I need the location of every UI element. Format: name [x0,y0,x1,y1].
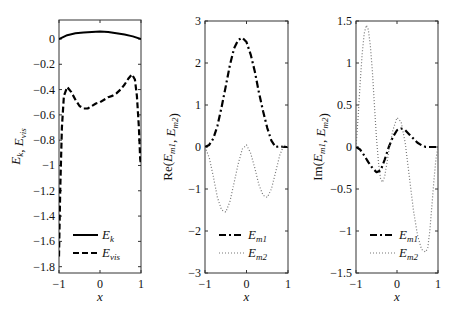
x-axis-label: x [243,289,250,304]
chart-panel-left: 0−0.2−0.4−0.6−0.8−1−1.2−1.4−1.6−1.8−101x… [8,20,144,304]
y-tick-label: −0.8 [33,133,55,147]
y-tick-label: 1 [346,56,352,70]
y-tick-label: 0 [195,140,201,154]
legend-label: Em2 [398,245,418,262]
legend: Em1Em2 [219,227,267,262]
x-tick-label: 1 [285,277,291,291]
y-tick-label: −0.6 [33,108,55,122]
y-tick-label: −1.4 [33,209,55,223]
y-tick-label: 2 [195,56,201,70]
chart-panel-middle: 3210−1−2−3−101xRe(Em1, Em2)Em1Em2 [160,14,291,304]
x-tick-label: −1 [53,277,66,291]
y-axis-label: Im(Em1, Em2) [310,113,331,181]
x-tick-label: −1 [350,277,363,291]
y-tick-label: −0.4 [33,83,55,97]
series-line-em2 [205,145,288,212]
y-tick-label: −1 [339,224,352,238]
y-tick-label: −2 [188,224,201,238]
legend: EkEvis [73,227,120,262]
plot-frame [205,21,288,273]
y-tick-label: −0.2 [33,57,55,71]
x-axis-label: x [96,289,103,304]
series-line-em2 [356,25,438,252]
y-tick-label: −1.6 [33,234,55,248]
legend-label: Em1 [398,227,418,244]
y-axis-label: Ek, Evis [8,128,28,166]
y-tick-label: 3 [195,14,201,28]
y-tick-label: −1 [42,158,55,172]
y-tick-label: −1 [188,182,201,196]
x-tick-label: −1 [199,277,212,291]
y-tick-label: 1.5 [337,14,352,28]
x-tick-label: 1 [138,277,144,291]
series-line-ek [59,31,141,39]
series-line-em1 [356,129,438,173]
figure: 0−0.2−0.4−0.6−0.8−1−1.2−1.4−1.6−1.8−101x… [0,0,457,314]
legend-label: Evis [101,245,120,262]
y-tick-label: −1.2 [33,184,55,198]
x-axis-label: x [393,289,400,304]
chart-panel-right: 1.510.50−0.5−1−1.5−101xIm(Em1, Em2)Em1Em… [310,14,441,304]
y-axis-label: Re(Em1, Em2) [160,113,181,181]
series-line-evis [59,74,141,256]
legend-label: Ek [101,227,115,244]
series-line-em1 [205,38,288,147]
y-tick-label: −0.5 [330,182,352,196]
legend-label: Em2 [247,245,267,262]
y-tick-label: 0.5 [337,98,352,112]
y-tick-label: 1 [195,98,201,112]
y-tick-label: 0 [49,32,55,46]
plot-frame [59,20,141,273]
x-tick-label: 1 [435,277,441,291]
legend-label: Em1 [247,227,267,244]
y-tick-label: 0 [346,140,352,154]
y-tick-label: −1.8 [33,260,55,274]
legend: Em1Em2 [370,227,418,262]
